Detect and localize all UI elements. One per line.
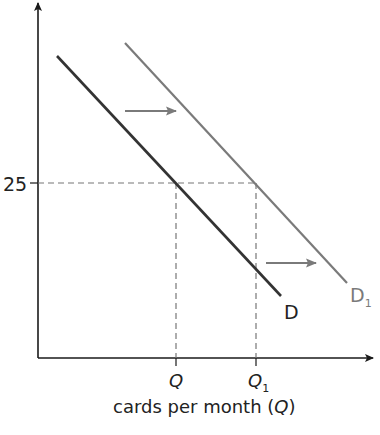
x-axis-title-text: cards per month ( bbox=[113, 396, 274, 417]
q1-main: Q bbox=[248, 370, 262, 391]
x-axis-title: cards per month (Q) bbox=[113, 396, 296, 417]
x-tick-label-q1: Q1 bbox=[248, 370, 269, 395]
curve-label-d1: D1 bbox=[350, 284, 372, 310]
demand-shift-diagram: 25 Q Q1 cards per month (Q) D D1 bbox=[0, 0, 380, 435]
d1-subscript: 1 bbox=[365, 297, 372, 310]
x-axis-title-close: ) bbox=[289, 396, 296, 417]
y-tick-label-25: 25 bbox=[3, 173, 27, 195]
q1-subscript: 1 bbox=[262, 382, 269, 395]
x-axis-title-var: Q bbox=[274, 396, 288, 417]
curve-label-d: D bbox=[284, 301, 299, 323]
d1-main: D bbox=[350, 284, 365, 306]
x-tick-label-q: Q bbox=[169, 370, 183, 391]
